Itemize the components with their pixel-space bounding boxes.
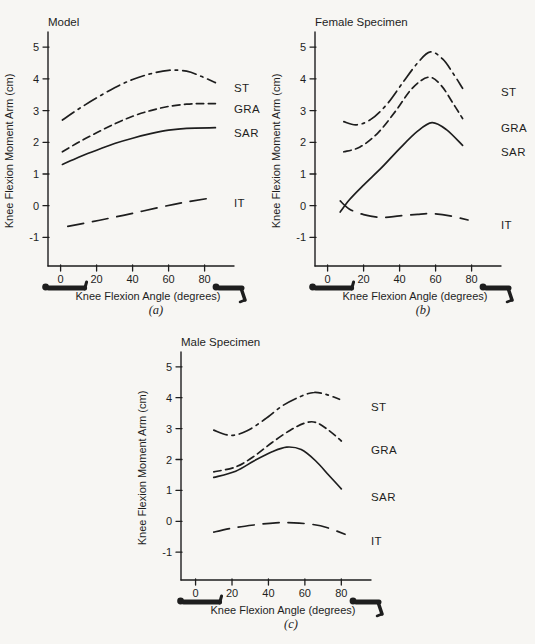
x-tick-label: 60: [162, 273, 174, 285]
panel-title: Female Specimen: [315, 16, 408, 28]
y-tick-label: -1: [162, 546, 172, 558]
chart-a: 543210-1020406080STGRASARITModelKnee Fle…: [0, 2, 268, 318]
series-label-IT: IT: [371, 535, 382, 547]
y-tick-label: 1: [166, 484, 172, 496]
x-tick-label: 0: [58, 273, 64, 285]
y-tick-label: 1: [300, 168, 306, 180]
x-tick-label: 60: [429, 273, 441, 285]
series-label-GRA: GRA: [501, 122, 527, 134]
x-tick-label: 80: [198, 273, 210, 285]
y-tick-label: 5: [166, 361, 172, 373]
x-tick-label: 40: [262, 587, 274, 599]
y-tick-label: 0: [33, 200, 39, 212]
y-tick-label: 3: [300, 105, 306, 117]
y-tick-label: 3: [166, 423, 172, 435]
x-axis-title: Knee Flexion Angle (degrees): [343, 290, 488, 302]
chart-b: 543210-1020406080STGRASARITFemale Specim…: [267, 2, 535, 318]
series-line-GRA: [344, 77, 463, 152]
y-axis-title: Knee Flexion Moment Arm (cm): [3, 74, 15, 229]
chart-c: 543210-1020406080STGRASARITMale Specimen…: [133, 322, 405, 632]
series-label-SAR: SAR: [501, 146, 526, 158]
panel-caption: (b): [416, 303, 431, 317]
series-label-GRA: GRA: [234, 103, 260, 115]
y-tick-label: 4: [300, 73, 306, 85]
y-tick-label: 4: [33, 73, 39, 85]
y-axis-title: Knee Flexion Moment Arm (cm): [136, 391, 148, 546]
panel-title: Male Specimen: [181, 336, 260, 348]
x-tick-label: 60: [299, 587, 311, 599]
knee-moment-arm-figure: 543210-1020406080STGRASARITModelKnee Fle…: [0, 0, 535, 644]
x-axis-title: Knee Flexion Angle (degrees): [211, 604, 356, 616]
y-tick-label: 1: [33, 168, 39, 180]
series-label-SAR: SAR: [234, 127, 259, 139]
series-label-ST: ST: [234, 82, 250, 94]
panel-caption: (a): [149, 303, 164, 317]
series-label-IT: IT: [501, 219, 512, 231]
x-tick-label: 40: [126, 273, 138, 285]
x-tick-label: 0: [325, 273, 331, 285]
panel-c-male-specimen: 543210-1020406080STGRASARITMale Specimen…: [133, 322, 405, 632]
series-line-SAR: [340, 123, 462, 212]
panel-caption: (c): [284, 617, 298, 631]
x-tick-label: 80: [465, 273, 477, 285]
series-line-ST: [62, 70, 215, 120]
person-lying-supine-icon: [309, 282, 353, 290]
series-label-IT: IT: [234, 197, 245, 209]
x-tick-label: 80: [335, 587, 347, 599]
series-label-SAR: SAR: [371, 491, 396, 503]
panel-b-female-specimen: 543210-1020406080STGRASARITFemale Specim…: [267, 2, 535, 318]
y-tick-label: 5: [33, 41, 39, 53]
y-tick-label: 2: [166, 454, 172, 466]
person-lying-supine-icon: [177, 596, 221, 604]
person-lying-supine-icon: [42, 282, 86, 290]
y-tick-label: 0: [166, 515, 172, 527]
series-label-GRA: GRA: [371, 444, 397, 456]
y-tick-label: -1: [29, 231, 39, 243]
y-tick-label: 5: [300, 41, 306, 53]
series-line-ST: [214, 392, 340, 435]
series-line-IT: [214, 523, 345, 535]
series-line-IT: [340, 201, 468, 220]
x-tick-label: 20: [357, 273, 369, 285]
panel-title: Model: [48, 16, 79, 28]
x-axis-title: Knee Flexion Angle (degrees): [76, 290, 221, 302]
series-line-ST: [344, 52, 463, 125]
x-tick-label: 20: [226, 587, 238, 599]
series-label-ST: ST: [371, 401, 387, 413]
series-line-SAR: [62, 128, 215, 165]
series-line-GRA: [214, 422, 342, 472]
y-tick-label: 3: [33, 105, 39, 117]
y-tick-label: 2: [33, 136, 39, 148]
y-tick-label: 2: [300, 136, 306, 148]
x-tick-label: 40: [393, 273, 405, 285]
y-tick-label: -1: [296, 231, 306, 243]
x-tick-label: 20: [90, 273, 102, 285]
series-label-ST: ST: [501, 86, 517, 98]
y-axis-title: Knee Flexion Moment Arm (cm): [270, 74, 282, 229]
y-tick-label: 0: [300, 200, 306, 212]
y-tick-label: 4: [166, 392, 172, 404]
x-tick-label: 0: [193, 587, 199, 599]
panel-a-model: 543210-1020406080STGRASARITModelKnee Fle…: [0, 2, 268, 318]
series-line-IT: [68, 199, 207, 227]
